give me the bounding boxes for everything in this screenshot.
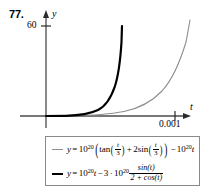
eq1-open-paren-tan: ( (111, 143, 114, 156)
eq1-open-paren-outer: ( (95, 141, 98, 158)
x-axis-tick-label-0001: 0.001 (159, 119, 180, 129)
eq1-plus: + (126, 145, 134, 154)
eq1-variable-t: t (192, 145, 195, 154)
curve-black-series (46, 26, 122, 116)
eq1-tan: tan (99, 145, 110, 154)
plot-area: y t 60 0.001 (0, 0, 213, 132)
eq1-close-paren-outer: ) (165, 141, 168, 158)
eq1-fraction-t-over-3-second: t 3 (153, 142, 159, 157)
legend-swatch-black-icon (52, 173, 63, 175)
legend-equation-gray: y = 1020 ( tan ( t 3 ) + 2sin ( t 3 ) (67, 141, 194, 158)
eq1-coef2-exponent: 20 (186, 144, 192, 150)
eq1-coef-exponent: 20 (88, 144, 94, 150)
legend-entry-gray: y = 1020 ( tan ( t 3 ) + 2sin ( t 3 ) (46, 137, 199, 162)
eq2-frac-denominator: 2 + cos(t) (129, 173, 163, 183)
eq1-frac1-denominator: 3 (115, 149, 121, 157)
y-axis-tick-label-60: 60 (27, 20, 37, 30)
eq2-fraction-sin-over-2pluscos: sin(t) 2 + cos(t) (129, 164, 163, 182)
eq2-coef2: 10 (114, 169, 123, 178)
eq2-minus: − (96, 169, 104, 178)
figure-container: 77. y t 60 0.001 y (0, 0, 213, 192)
eq1-fraction-t-over-3: t 3 (115, 142, 121, 157)
eq2-coef: 10 (79, 169, 88, 178)
y-axis-label: y (52, 8, 56, 19)
eq1-open-paren-sin: ( (149, 143, 152, 156)
eq2-coef-exponent: 20 (88, 168, 94, 174)
eq1-close-paren-tan: ) (122, 143, 125, 156)
eq1-coef: 10 (79, 145, 88, 154)
eq1-close-paren-sin: ) (160, 143, 163, 156)
legend-box: y = 1020 ( tan ( t 3 ) + 2sin ( t 3 ) (45, 136, 200, 186)
legend-equation-black: y = 1020t − 3·1020 sin(t) 2 + cos(t) (67, 164, 164, 182)
eq1-equals: = (71, 145, 79, 154)
x-axis-label: t (190, 101, 193, 112)
eq1-sin: sin (138, 145, 149, 154)
eq1-coef2: 10 (177, 145, 186, 154)
legend-entry-black: y = 1020t − 3·1020 sin(t) 2 + cos(t) (46, 161, 199, 186)
legend-swatch-gray-icon (52, 149, 63, 150)
eq2-frac-numerator: sin(t) (137, 164, 156, 173)
eq1-frac2-numerator: t (154, 142, 158, 149)
x-axis-arrow (183, 113, 191, 119)
y-axis-arrow (43, 10, 49, 18)
eq1-frac2-denominator: 3 (153, 149, 159, 157)
eq1-frac1-numerator: t (116, 142, 120, 149)
eq2-equals: = (71, 169, 79, 178)
eq2-coef2-exponent: 20 (123, 168, 129, 174)
eq1-minus: − (169, 145, 177, 154)
